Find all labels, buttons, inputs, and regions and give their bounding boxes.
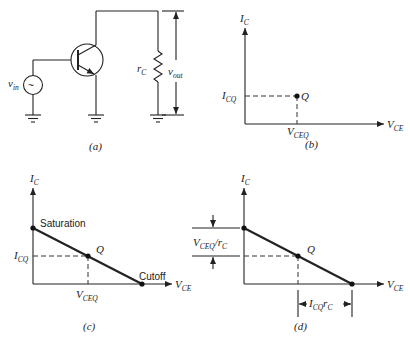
icq-label: ICQ <box>221 89 237 104</box>
caption-c: (c) <box>83 320 96 333</box>
caption-b: (b) <box>305 138 318 151</box>
icq-label: ICQ <box>13 249 29 264</box>
vceq-label: VCEQ <box>76 288 98 303</box>
cutoff-point <box>349 281 354 286</box>
q-label: Q <box>96 243 104 255</box>
x-axis-label: VCE <box>175 278 192 293</box>
q-point <box>85 253 90 258</box>
saturation-point <box>241 225 246 230</box>
y-axis-label: IC <box>29 172 40 187</box>
y-axis-label: IC <box>240 172 251 187</box>
vceq-over-rc-label: VCEQ/rC <box>193 236 228 251</box>
caption-d: (d) <box>294 320 307 333</box>
ground-icon <box>150 115 166 122</box>
vout-label: vout <box>168 65 183 80</box>
rc-label: rC <box>137 62 147 77</box>
x-axis-label: VCE <box>387 278 404 293</box>
panel-c-graph: Saturation Q Cutoff IC VCE ICQ VCEQ (c) <box>13 172 192 333</box>
ac-source-symbol: ~ <box>28 80 34 91</box>
panel-b-graph: Q IC VCE ICQ VCEQ (b) <box>221 12 404 151</box>
saturation-point <box>30 225 35 230</box>
cutoff-point <box>139 281 144 286</box>
q-point <box>294 93 299 98</box>
q-label: Q <box>307 243 315 255</box>
icq-rc-label: ICQrC <box>308 297 333 312</box>
panel-a-circuit: ~ vin <box>8 11 184 153</box>
x-axis-label: VCE <box>387 118 404 133</box>
npn-transistor-icon <box>71 44 103 76</box>
ground-icon <box>25 115 41 122</box>
figure-canvas: ~ vin <box>0 0 410 341</box>
q-label: Q <box>301 90 309 102</box>
ground-icon <box>88 115 104 122</box>
y-axis-label: IC <box>239 12 250 27</box>
q-point <box>295 253 300 258</box>
saturation-label: Saturation <box>40 218 86 229</box>
cutoff-label: Cutoff <box>139 271 166 282</box>
vin-label: vin <box>8 77 19 92</box>
panel-d-graph: Q IC VCE VCEQ/rC ICQrC (d) <box>192 172 404 333</box>
caption-a: (a) <box>89 140 102 153</box>
resistor-icon <box>154 51 162 82</box>
